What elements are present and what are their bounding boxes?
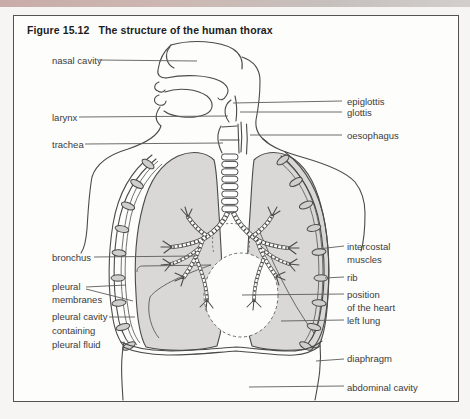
- label-line: position: [347, 288, 395, 301]
- label-line: membranes: [52, 293, 102, 306]
- label-line: containing: [52, 324, 107, 338]
- label-nasal-cavity: nasal cavity: [52, 54, 102, 67]
- label-line: muscles: [347, 253, 390, 266]
- label-line: intercostal: [347, 240, 390, 253]
- label-line: of the heart: [347, 301, 395, 314]
- label-line: pleural fluid: [52, 338, 107, 352]
- label-intercostal-muscles: intercostal muscles: [347, 240, 390, 266]
- label-bronchus: bronchus: [52, 251, 91, 264]
- label-diaphragm: diaphragm: [347, 352, 392, 365]
- label-glottis: glottis: [347, 106, 372, 119]
- label-left-lung: left lung: [347, 314, 380, 327]
- label-trachea: trachea: [52, 138, 84, 151]
- figure-number: Figure 15.12: [27, 24, 89, 36]
- figure-title-text: The structure of the human thorax: [98, 24, 272, 36]
- label-rib: rib: [347, 271, 358, 284]
- label-line: pleural: [52, 280, 102, 293]
- label-line: pleural cavity: [52, 310, 107, 324]
- figure-title: Figure 15.12The structure of the human t…: [27, 24, 273, 36]
- label-oesophagus: oesophagus: [347, 129, 399, 142]
- label-abdominal-cavity: abdominal cavity: [347, 381, 418, 394]
- label-pleural-cavity: pleural cavity containing pleural fluid: [52, 310, 107, 352]
- label-position-of-heart: position of the heart: [347, 288, 395, 314]
- page-edge-strip: [0, 0, 470, 7]
- label-larynx: larynx: [52, 111, 77, 124]
- label-pleural-membranes: pleural membranes: [52, 280, 102, 306]
- scanned-page: Figure 15.12The structure of the human t…: [0, 0, 470, 419]
